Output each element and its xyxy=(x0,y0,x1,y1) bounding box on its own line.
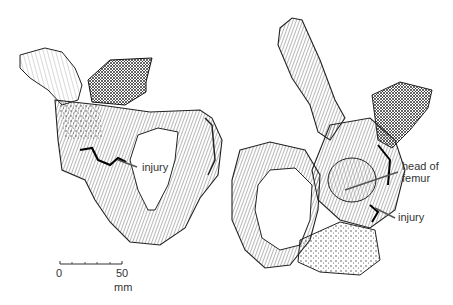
right-pelvis-drawing xyxy=(232,18,432,275)
left-injury-label: injury xyxy=(142,161,168,173)
left-stippled-region xyxy=(58,100,102,140)
right-foramen xyxy=(255,168,312,250)
left-ilium-blade xyxy=(20,48,82,105)
right-injury-label: injury xyxy=(398,211,424,223)
scale-end-label: 50 xyxy=(116,267,128,279)
scale-bar xyxy=(60,261,122,264)
scale-start-label: 0 xyxy=(56,267,62,279)
femur-head xyxy=(328,158,376,202)
illustration-canvas xyxy=(0,0,453,305)
scale-unit-label: mm xyxy=(114,281,132,293)
head-of-femur-label-line1: head of xyxy=(402,160,439,172)
head-of-femur-label-line2: femur xyxy=(402,172,430,184)
right-femur-shaft xyxy=(278,18,345,140)
left-pelvis-drawing xyxy=(20,48,222,245)
left-dark-block xyxy=(88,58,152,105)
